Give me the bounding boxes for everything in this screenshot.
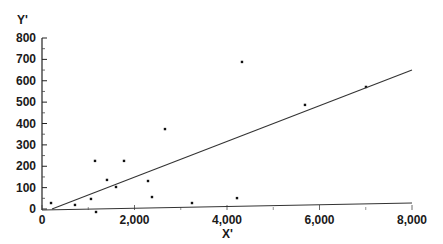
data-point: [95, 211, 97, 213]
x-tick-label: 6,000: [304, 213, 334, 227]
fit-line-steep: [52, 70, 412, 209]
data-point: [236, 197, 238, 199]
data-point: [164, 128, 166, 130]
data-point: [151, 196, 153, 198]
y-tick-label: 200: [16, 159, 36, 173]
data-point: [50, 202, 52, 204]
y-tick-label: 800: [16, 31, 36, 45]
y-tick-label: 300: [16, 138, 36, 152]
y-tick-label: 500: [16, 95, 36, 109]
y-tick-label: 100: [16, 181, 36, 195]
data-point: [304, 104, 306, 106]
y-axis-title: Y': [17, 13, 28, 27]
y-tick-label: 600: [16, 74, 36, 88]
scatter-chart: 010020030040050060070080002,0004,0006,00…: [0, 0, 443, 244]
y-tick-label: 0: [29, 202, 36, 216]
y-tick-label: 700: [16, 52, 36, 66]
data-point: [90, 198, 92, 200]
x-tick-label: 4,000: [212, 213, 242, 227]
data-point: [115, 186, 117, 188]
y-tick-label: 400: [16, 117, 36, 131]
x-tick-label: 0: [39, 213, 46, 227]
data-point: [106, 179, 108, 181]
data-point: [74, 204, 76, 206]
data-point: [241, 61, 243, 63]
data-point: [123, 160, 125, 162]
x-axis-title: X': [222, 227, 233, 241]
plot-area: 010020030040050060070080002,0004,0006,00…: [16, 31, 427, 227]
data-point: [147, 180, 149, 182]
x-tick-label: 2,000: [119, 213, 149, 227]
data-point: [191, 202, 193, 204]
x-tick-label: 8,000: [397, 213, 427, 227]
data-point: [94, 160, 96, 162]
